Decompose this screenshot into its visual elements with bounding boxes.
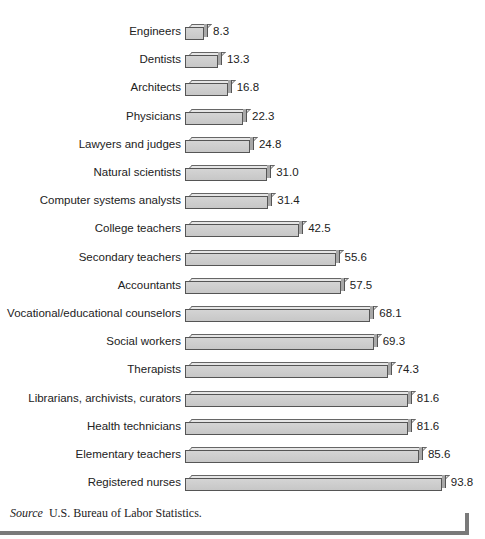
bar — [185, 193, 272, 209]
bar-side-face — [419, 447, 423, 460]
source-prefix: Source — [10, 506, 43, 520]
bar-row: Registered nurses93.8 — [0, 473, 485, 495]
bar — [185, 334, 378, 350]
bar — [185, 391, 412, 407]
bar-front-face — [185, 55, 218, 68]
category-label: Therapists — [127, 363, 181, 375]
bar-row: Librarians, archivists, curators81.6 — [0, 389, 485, 411]
category-label: Architects — [131, 81, 182, 93]
frame-border-bottom — [0, 531, 469, 535]
category-label: Elementary teachers — [76, 448, 181, 460]
value-label: 57.5 — [350, 279, 372, 291]
bar-row: Therapists74.3 — [0, 360, 485, 382]
bar — [185, 137, 254, 153]
bar-front-face — [185, 365, 388, 378]
bar-row: Natural scientists31.0 — [0, 163, 485, 185]
bar — [185, 419, 412, 435]
bar — [185, 109, 247, 125]
bar-row: Health technicians81.6 — [0, 417, 485, 439]
value-label: 85.6 — [428, 448, 450, 460]
category-label: College teachers — [95, 222, 181, 234]
value-label: 81.6 — [417, 420, 439, 432]
bar-front-face — [185, 140, 250, 153]
bar-side-face — [388, 362, 392, 375]
value-label: 42.5 — [308, 222, 330, 234]
source-text: U.S. Bureau of Labor Statistics. — [49, 506, 202, 520]
bar-front-face — [185, 224, 299, 237]
bar-side-face — [370, 306, 374, 319]
bar — [185, 278, 345, 294]
category-label: Physicians — [126, 110, 181, 122]
bar-row: Physicians22.3 — [0, 107, 485, 129]
bar-row: Engineers8.3 — [0, 22, 485, 44]
bar-front-face — [185, 281, 341, 294]
value-label: 93.8 — [451, 476, 473, 488]
bar-side-face — [204, 24, 208, 37]
bar-front-face — [185, 422, 408, 435]
category-label: Registered nurses — [88, 476, 181, 488]
bar-side-face — [228, 80, 232, 93]
bar-front-face — [185, 450, 419, 463]
category-label: Vocational/educational counselors — [7, 307, 181, 319]
category-label: Engineers — [129, 25, 181, 37]
value-label: 81.6 — [417, 392, 439, 404]
bar — [185, 52, 222, 68]
value-label: 31.4 — [277, 194, 299, 206]
bar — [185, 165, 271, 181]
value-label: 13.3 — [227, 53, 249, 65]
bar-row: College teachers42.5 — [0, 219, 485, 241]
bar — [185, 475, 446, 491]
value-label: 68.1 — [379, 307, 401, 319]
bar-front-face — [185, 478, 442, 491]
bar-row: Social workers69.3 — [0, 332, 485, 354]
horizontal-bar-chart: Engineers8.3Dentists13.3Architects16.8Ph… — [0, 0, 485, 500]
bar-row: Lawyers and judges24.8 — [0, 135, 485, 157]
bar — [185, 447, 423, 463]
bar — [185, 24, 208, 40]
bar-side-face — [267, 165, 271, 178]
bar-front-face — [185, 309, 370, 322]
bar-side-face — [341, 278, 345, 291]
bar-row: Secondary teachers55.6 — [0, 248, 485, 270]
bar-row: Vocational/educational counselors68.1 — [0, 304, 485, 326]
bar-row: Architects16.8 — [0, 78, 485, 100]
bar-side-face — [442, 475, 446, 488]
category-label: Natural scientists — [93, 166, 181, 178]
bar-side-face — [408, 391, 412, 404]
bar — [185, 221, 303, 237]
category-label: Lawyers and judges — [79, 138, 181, 150]
bar-front-face — [185, 168, 267, 181]
bar-front-face — [185, 27, 204, 40]
bar-side-face — [408, 419, 412, 432]
category-label: Secondary teachers — [79, 251, 181, 263]
frame-border-right — [465, 513, 469, 535]
value-label: 31.0 — [276, 166, 298, 178]
bar-front-face — [185, 196, 268, 209]
bar-side-face — [299, 221, 303, 234]
value-label: 55.6 — [345, 251, 367, 263]
bar-side-face — [374, 334, 378, 347]
bar-row: Accountants57.5 — [0, 276, 485, 298]
category-label: Social workers — [106, 335, 181, 347]
bar — [185, 306, 374, 322]
bar-side-face — [268, 193, 272, 206]
bar-row: Elementary teachers85.6 — [0, 445, 485, 467]
bar-row: Computer systems analysts31.4 — [0, 191, 485, 213]
bar-front-face — [185, 112, 243, 125]
bar-front-face — [185, 83, 228, 96]
value-label: 74.3 — [397, 363, 419, 375]
category-label: Librarians, archivists, curators — [28, 392, 181, 404]
bar-side-face — [218, 52, 222, 65]
value-label: 16.8 — [237, 81, 259, 93]
bar-side-face — [250, 137, 254, 150]
bar-side-face — [336, 250, 340, 263]
bar-front-face — [185, 394, 408, 407]
value-label: 22.3 — [252, 110, 274, 122]
value-label: 69.3 — [383, 335, 405, 347]
bar-front-face — [185, 337, 374, 350]
category-label: Dentists — [139, 53, 181, 65]
category-label: Accountants — [118, 279, 181, 291]
bar — [185, 250, 340, 266]
value-label: 24.8 — [259, 138, 281, 150]
bar — [185, 80, 232, 96]
